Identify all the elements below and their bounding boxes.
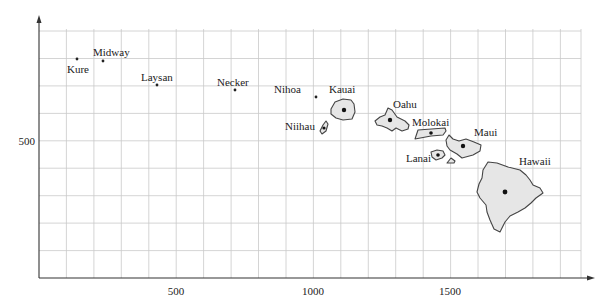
- label-oahu: Oahu: [393, 98, 417, 110]
- label-maui: Maui: [474, 126, 497, 138]
- x-axis-arrow-icon: [587, 276, 595, 281]
- label-midway: Midway: [93, 46, 130, 58]
- point-necker: [234, 89, 237, 92]
- point-laysan: [156, 84, 159, 87]
- point-nihoa: [315, 96, 318, 99]
- point-kure: [76, 58, 79, 61]
- island-kahoolawe: [447, 158, 455, 163]
- label-necker: Necker: [217, 76, 249, 88]
- x-tick-500: 500: [168, 285, 185, 297]
- grid: [39, 29, 581, 278]
- label-niihau: Niihau: [285, 120, 315, 132]
- label-hawaii: Hawaii: [519, 155, 551, 167]
- y-axis-arrow-icon: [37, 15, 42, 23]
- point-midway: [102, 60, 105, 63]
- y-tick-500: 500: [19, 135, 36, 147]
- x-tick-1000: 1000: [302, 285, 325, 297]
- x-tick-1500: 1500: [439, 285, 462, 297]
- label-molokai: Molokai: [412, 116, 449, 128]
- label-lanai: Lanai: [406, 152, 431, 164]
- label-kure: Kure: [67, 63, 89, 75]
- label-laysan: Laysan: [141, 71, 173, 83]
- label-nihoa: Nihoa: [274, 83, 301, 95]
- label-kauai: Kauai: [329, 83, 355, 95]
- hawaiian-islands-chart: 500 1000 1500 500 Kure: [0, 0, 613, 305]
